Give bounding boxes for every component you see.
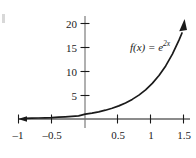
plot-canvas <box>0 0 196 158</box>
x-tick-label--0.5: –0.5 <box>42 130 61 141</box>
curve-function-label: f(x) = e2x <box>130 40 170 53</box>
x-tick-label--1: –1 <box>13 130 24 141</box>
x-tick-label-1: 1 <box>148 130 154 141</box>
x-tick-label-0.5: 0.5 <box>111 130 125 141</box>
y-tick-label-20: 20 <box>60 19 77 30</box>
x-tick-label-1.5: 1.5 <box>177 130 191 141</box>
y-tick-label-15: 15 <box>60 43 77 54</box>
exponential-function-figure: –1 –0.5 0.5 1 1.5 20 15 10 5 f(x) = e2x <box>0 0 196 158</box>
curve-right-arrowhead <box>179 19 187 31</box>
y-tick-label-5: 5 <box>60 91 77 102</box>
curve-function-base: f(x) = e <box>130 41 163 53</box>
curve-function-exponent: 2x <box>163 39 170 48</box>
y-tick-label-10: 10 <box>60 67 77 78</box>
